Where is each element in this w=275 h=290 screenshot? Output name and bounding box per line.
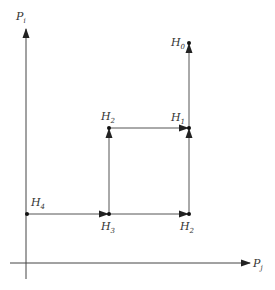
node-h0-dot xyxy=(187,41,191,45)
y-axis-label: Pi xyxy=(15,10,26,25)
node-h0-label: H0 xyxy=(170,36,186,51)
node-h2-top-dot xyxy=(107,126,111,130)
node-h4-dot xyxy=(25,212,29,216)
path-diagram: Pi Pj H0 H1 H2 H2 H3 H4 xyxy=(0,0,275,290)
node-h2-top-label: H2 xyxy=(100,110,116,125)
x-axis-label: Pj xyxy=(252,257,263,272)
node-h4-label: H4 xyxy=(30,196,45,211)
node-h1-label: H1 xyxy=(170,111,185,126)
node-h1-dot xyxy=(187,126,191,130)
node-h3-label: H3 xyxy=(100,220,116,235)
node-h2-bottom-label: H2 xyxy=(179,220,195,235)
node-h2-bottom-dot xyxy=(187,212,191,216)
node-h3-dot xyxy=(107,212,111,216)
